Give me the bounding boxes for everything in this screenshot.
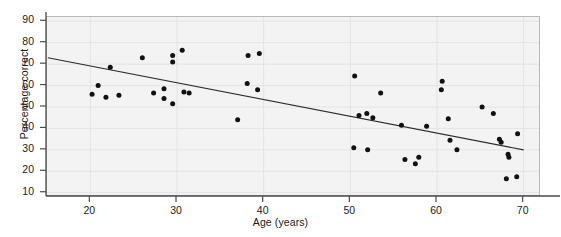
data-point xyxy=(365,147,370,152)
data-point xyxy=(440,79,445,84)
regression-line xyxy=(48,58,524,150)
data-point xyxy=(480,105,485,110)
data-point xyxy=(162,96,167,101)
data-point xyxy=(416,155,421,160)
data-point xyxy=(413,161,418,166)
data-point xyxy=(357,113,362,118)
data-point xyxy=(454,147,459,152)
data-point xyxy=(151,91,156,96)
data-point xyxy=(245,81,250,86)
data-point xyxy=(424,124,429,129)
data-point xyxy=(108,65,113,70)
y-tick-label: 10 xyxy=(4,185,34,197)
data-point xyxy=(187,91,192,96)
data-point xyxy=(96,83,101,88)
data-point xyxy=(246,53,251,58)
data-point xyxy=(378,91,383,96)
scatter-plot-figure: 102030405060708090 203040506070 Percenta… xyxy=(0,0,561,237)
data-point xyxy=(506,155,511,160)
data-point xyxy=(491,111,496,116)
x-tick-label: 50 xyxy=(331,204,367,216)
data-point xyxy=(255,87,260,92)
data-point xyxy=(497,137,502,142)
x-tick-label: 20 xyxy=(71,204,107,216)
data-point xyxy=(170,101,175,106)
data-point xyxy=(402,157,407,162)
data-point xyxy=(140,55,145,60)
scatter-canvas xyxy=(47,17,540,196)
data-point xyxy=(90,92,95,97)
data-point xyxy=(351,145,356,150)
data-point xyxy=(439,87,444,92)
data-point xyxy=(370,115,375,120)
data-point xyxy=(170,53,175,58)
data-point xyxy=(116,93,121,98)
data-point xyxy=(181,90,186,95)
plot-area xyxy=(46,16,540,196)
x-tick-label: 70 xyxy=(505,204,541,216)
data-point xyxy=(399,123,404,128)
data-point xyxy=(170,60,175,65)
x-axis-label: Age (years) xyxy=(0,216,561,228)
data-point xyxy=(352,73,357,78)
data-point xyxy=(103,95,108,100)
data-point xyxy=(514,174,519,179)
x-tick-label: 40 xyxy=(245,204,281,216)
data-point xyxy=(515,131,520,136)
data-point xyxy=(162,86,167,91)
data-point xyxy=(180,48,185,53)
data-point xyxy=(257,51,262,56)
data-point xyxy=(446,116,451,121)
x-tick-label: 60 xyxy=(418,204,454,216)
x-tick-label: 30 xyxy=(158,204,194,216)
data-point xyxy=(364,111,369,116)
data-point xyxy=(504,176,509,181)
data-point xyxy=(235,117,240,122)
y-axis-label: Percentage correct xyxy=(18,14,30,174)
data-point xyxy=(448,138,453,143)
